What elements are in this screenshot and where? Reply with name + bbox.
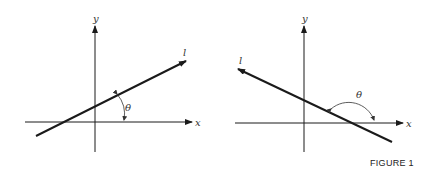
theta-label: θ — [356, 89, 362, 100]
line-l — [238, 69, 392, 142]
theta-label: θ — [125, 102, 131, 113]
line-l-label: l — [183, 47, 186, 58]
y-axis-label: y — [301, 13, 308, 24]
y-axis-label: y — [92, 13, 99, 24]
angle-theta-arc — [331, 102, 374, 120]
panel-positive-slope: y x l θ — [25, 13, 201, 152]
x-axis-label: x — [195, 117, 201, 128]
angle-theta-arc — [117, 94, 125, 120]
x-axis-label: x — [406, 118, 412, 129]
panel-negative-slope: y x l θ — [235, 13, 412, 152]
figure-caption: FIGURE 1 — [370, 158, 414, 168]
line-l-label: l — [239, 55, 242, 66]
line-l — [36, 61, 186, 136]
figure-canvas: y x l θ y x l θ FIGURE 1 — [0, 0, 433, 174]
